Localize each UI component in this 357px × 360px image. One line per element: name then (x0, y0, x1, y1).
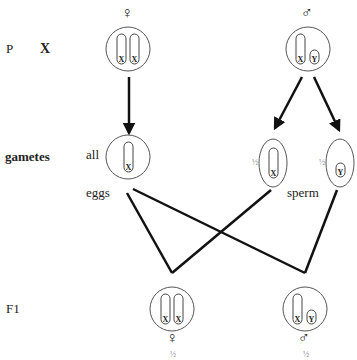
chromosome-label: X (295, 315, 301, 324)
egg-caption: eggs (86, 185, 110, 201)
chromosome-label: X (132, 55, 138, 64)
female-symbol-icon: ♀ (166, 329, 178, 347)
chromosome-label: X (176, 315, 182, 324)
arrow-male-to-sperm-y (314, 77, 339, 130)
egg-prefix: all (86, 147, 99, 163)
female-symbol-icon: ♀ (121, 4, 133, 22)
row-label-parents: P (6, 41, 13, 57)
arrow-male-to-sperm-x (275, 77, 302, 128)
male-symbol-icon: ♂ (301, 4, 313, 22)
chromosome-label: X (271, 169, 277, 178)
chromosome-label: Y (312, 55, 318, 64)
row-label-f1: F1 (6, 301, 20, 317)
chromosome-label: Y (338, 168, 344, 177)
chromosome-label: Y (309, 315, 315, 324)
chromosome-label: X (163, 315, 169, 324)
f1-female-fraction: ½ (170, 350, 176, 359)
egg-cell (106, 135, 150, 179)
f1-female-cell (150, 287, 194, 331)
line-sperm-x-to-f1-female (172, 190, 271, 273)
parent-female-cell (106, 27, 150, 71)
male-symbol-icon: ♂ (298, 329, 310, 347)
sperm-x-fraction: ½ (252, 158, 258, 167)
f1-male-fraction: ½ (303, 350, 309, 359)
cross-symbol: X (40, 41, 50, 57)
sperm-x-cell (259, 139, 287, 187)
sperm-caption: sperm (287, 185, 319, 201)
sperm-y-fraction: ½ (319, 158, 325, 167)
parent-male-cell (286, 27, 330, 71)
f1-male-cell (283, 287, 327, 331)
line-sperm-y-to-f1-male (305, 190, 337, 273)
sperm-y-cell (326, 139, 354, 187)
chromosome-label: X (126, 163, 132, 172)
line-egg-to-f1-male (133, 189, 305, 273)
chromosome-label: X (298, 55, 304, 64)
inheritance-diagram: X X X Y X X Y X X X Y (0, 0, 357, 360)
chromosome-label: X (119, 55, 125, 64)
row-label-gametes: gametes (5, 149, 50, 165)
